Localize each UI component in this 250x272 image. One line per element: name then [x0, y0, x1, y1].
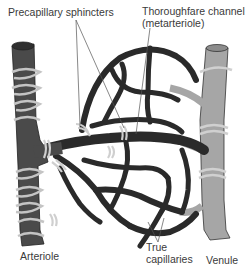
label-thoroughfare-channel: Thoroughfare channel (metarteriole)	[142, 5, 245, 29]
label-venule: Venule	[206, 254, 238, 266]
capillary-bed-diagram: Precapillary sphincters Thoroughfare cha…	[0, 0, 250, 272]
capillary-network	[48, 48, 204, 246]
leader-precap-1	[76, 20, 80, 126]
label-true-capillaries-line2: capillaries	[146, 253, 193, 265]
label-thoroughfare-line2: (metarteriole)	[142, 17, 245, 29]
capillary-bed-illustration	[0, 0, 250, 272]
label-precapillary-sphincters: Precapillary sphincters	[8, 6, 114, 18]
label-thoroughfare-line1: Thoroughfare channel	[142, 5, 245, 17]
label-true-capillaries-line1: True	[146, 241, 193, 253]
label-arteriole: Arteriole	[20, 250, 59, 262]
label-true-capillaries: True capillaries	[146, 241, 193, 265]
